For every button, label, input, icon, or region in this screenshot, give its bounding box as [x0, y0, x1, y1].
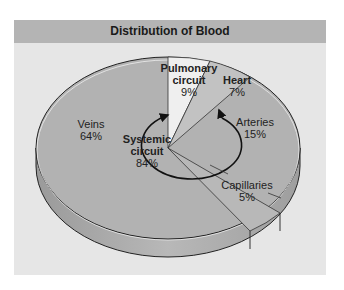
systemic-name2: circuit — [114, 145, 180, 157]
arteries-name: Arteries — [225, 116, 285, 128]
label-arteries: Arteries 15% — [225, 116, 285, 140]
systemic-name: Systemic — [114, 133, 180, 145]
heart-name: Heart — [212, 74, 262, 86]
pulmonary-name: Pulmonary — [156, 62, 222, 74]
label-capillaries: Capillaries 5% — [212, 179, 282, 203]
heart-value: 7% — [212, 86, 262, 98]
label-veins: Veins 64% — [66, 118, 116, 142]
systemic-value: 84% — [114, 157, 180, 169]
capillaries-value: 5% — [212, 191, 282, 203]
veins-name: Veins — [66, 118, 116, 130]
veins-value: 64% — [66, 130, 116, 142]
label-systemic: Systemic circuit 84% — [114, 133, 180, 169]
capillaries-name: Capillaries — [212, 179, 282, 191]
label-heart: Heart 7% — [212, 74, 262, 98]
arteries-value: 15% — [225, 128, 285, 140]
